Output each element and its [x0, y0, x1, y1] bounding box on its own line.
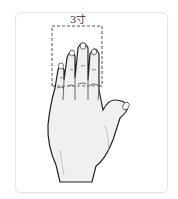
hand-illustration: [0, 0, 178, 199]
